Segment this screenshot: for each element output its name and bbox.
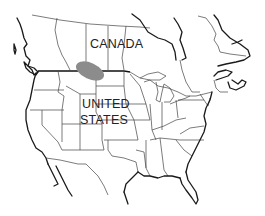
mexico-gulf-coast: [124, 192, 128, 204]
ut-co-border: [62, 124, 80, 150]
ga-sc-border: [176, 140, 192, 156]
gulf-st-lawrence: [214, 70, 232, 80]
lake-huron-michigan: [164, 84, 174, 102]
florida: [180, 172, 198, 204]
label-canada: CANADA: [90, 37, 144, 51]
labrador-coast: [214, 15, 250, 66]
idaho-border: [58, 71, 64, 110]
montana-border: [66, 86, 96, 94]
canada-northern-edge: [32, 15, 150, 28]
ms-al-border: [146, 140, 150, 176]
oh-pa-border: [176, 100, 178, 118]
mexico-border: [46, 158, 108, 195]
mexico-west-coast: [56, 166, 72, 196]
label-states: STATES: [80, 113, 128, 127]
maritimes-coast: [228, 80, 246, 90]
us-west-coast: [26, 73, 48, 164]
al-ga-border: [160, 138, 168, 176]
ontario-quebec-border: [180, 60, 200, 92]
ca-nv-border: [42, 110, 58, 142]
us-east-coast: [186, 92, 212, 172]
labrador-border: [198, 16, 246, 56]
ky-tn-border: [150, 138, 204, 140]
oh-ky-border: [152, 118, 186, 130]
new-brunswick-border: [214, 80, 228, 92]
north-america-map: CANADA UNITED STATES: [0, 0, 265, 216]
bc-coast: [17, 18, 38, 75]
bc-alberta-border: [55, 18, 70, 70]
highlighted-region: [73, 57, 107, 84]
la-border: [136, 150, 146, 168]
il-in-border: [150, 104, 156, 140]
va-nc-border: [180, 126, 204, 134]
gulf-coast: [138, 172, 180, 178]
lake-superior: [140, 72, 166, 82]
label-united: UNITED: [82, 97, 130, 111]
az-nm-border: [58, 142, 104, 150]
texas-border: [108, 140, 138, 172]
haida-gwaii: [14, 44, 16, 54]
texas-gulf-coast: [124, 172, 138, 192]
co-nm-border: [102, 124, 104, 150]
